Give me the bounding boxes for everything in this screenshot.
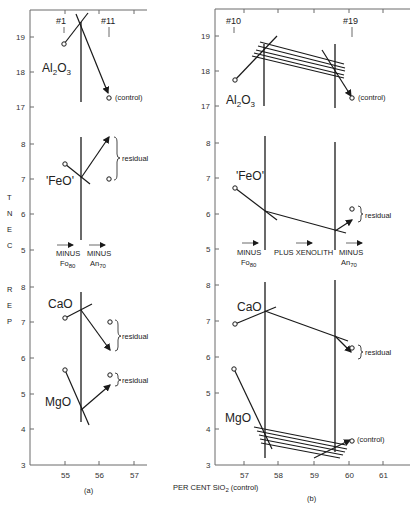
x-tick-57: 57 bbox=[130, 471, 139, 480]
y-tick-5-b: 5 bbox=[206, 245, 211, 254]
x-tick-60b: 60 bbox=[345, 471, 354, 480]
control-label: (control) bbox=[115, 93, 143, 102]
y-tick-19b: 19 bbox=[201, 32, 210, 41]
step-minus-fo80: MINUS bbox=[56, 249, 80, 258]
svg-text:E: E bbox=[7, 301, 12, 310]
svg-text:E: E bbox=[7, 225, 12, 234]
y-tick-5b: 5 bbox=[21, 390, 26, 399]
sample-label-11: #11 bbox=[101, 16, 115, 26]
y-tick-17b: 17 bbox=[201, 102, 210, 111]
panel-a-caption: (a) bbox=[84, 486, 94, 495]
oxide-label-al2o3-b: Al2O3 bbox=[226, 93, 255, 109]
oxide-label-cao: CaO bbox=[48, 297, 73, 311]
panel-b: 57 58 59 60 61 19 18 17 #10 #19 (control… bbox=[201, 9, 410, 503]
y-tick-7c: 7 bbox=[206, 317, 211, 326]
oxide-label-feo: 'FeO' bbox=[46, 174, 74, 188]
data-point-parent bbox=[62, 42, 66, 46]
y-tick-8b: 8 bbox=[21, 283, 26, 292]
oxide-label-mgo-b: MgO bbox=[225, 411, 251, 425]
x-tick-57b: 57 bbox=[240, 471, 249, 480]
x-tick-56: 56 bbox=[95, 471, 104, 480]
panel-b-caption: (b) bbox=[307, 494, 317, 503]
step-fo80-label: Fo80 bbox=[60, 259, 76, 269]
sample-label-19: #19 bbox=[343, 16, 358, 26]
cao-residual-label-b: residual bbox=[365, 348, 392, 357]
x-axis-label: PER CENT SiO2 (control) bbox=[173, 483, 259, 493]
svg-text:C: C bbox=[7, 241, 13, 250]
step-minus-an70: MINUS bbox=[87, 249, 111, 258]
y-tick-7: 7 bbox=[21, 175, 26, 184]
x-tick-59b: 59 bbox=[310, 471, 319, 480]
y-tick-18b: 18 bbox=[201, 67, 210, 76]
step-minus-fo80-b: MINUS bbox=[237, 248, 261, 257]
panel-a: 55 56 57 19 18 17 #1 #11 (control) Al2O3… bbox=[16, 10, 149, 495]
residual-label: residual bbox=[122, 154, 149, 163]
y-tick-6c: 6 bbox=[206, 353, 211, 362]
y-tick-8: 8 bbox=[21, 140, 26, 149]
oxide-label-feo-b: 'FeO' bbox=[236, 169, 264, 183]
y-axis-label: T N E C R E P bbox=[7, 193, 13, 326]
xenolith-mixing-lines bbox=[252, 42, 345, 78]
svg-text:R: R bbox=[7, 285, 13, 294]
data-point-control bbox=[107, 96, 111, 100]
mgo-residual-label: residual bbox=[122, 376, 149, 385]
cao-residual-label: residual bbox=[122, 332, 149, 341]
residual-brace bbox=[114, 137, 120, 180]
y-tick-6: 6 bbox=[21, 210, 26, 219]
step-plus-xenolith: PLUS XENOLITH bbox=[274, 248, 333, 257]
svg-text:T: T bbox=[7, 193, 12, 202]
step-minus-an70-b: MINUS bbox=[339, 248, 363, 257]
oxide-label-cao-b: CaO bbox=[237, 300, 262, 314]
x-tick-55: 55 bbox=[61, 471, 70, 480]
oxide-label-al2o3: Al2O3 bbox=[42, 61, 71, 77]
y-tick-7-b: 7 bbox=[206, 174, 211, 183]
control-label-b: (control) bbox=[358, 93, 386, 102]
y-tick-3b: 3 bbox=[21, 461, 26, 470]
sample-label-10: #10 bbox=[226, 16, 241, 26]
mgo-control-label-b: (control) bbox=[357, 435, 385, 444]
step-an70-label-b: An70 bbox=[341, 258, 358, 268]
y-tick-5: 5 bbox=[21, 246, 26, 255]
y-tick-17: 17 bbox=[16, 103, 25, 112]
figure-canvas: 55 56 57 19 18 17 #1 #11 (control) Al2O3… bbox=[0, 0, 417, 505]
y-tick-4b: 4 bbox=[21, 425, 26, 434]
oxide-label-mgo: MgO bbox=[45, 395, 71, 409]
feo-residual-label-b: residual bbox=[365, 211, 392, 220]
y-tick-7b: 7 bbox=[21, 318, 26, 327]
y-tick-8-b: 8 bbox=[206, 139, 211, 148]
step-fo80-label-b: Fo80 bbox=[241, 258, 257, 268]
sample-label-1: #1 bbox=[56, 16, 66, 26]
y-tick-4c: 4 bbox=[206, 425, 211, 434]
y-tick-6-b: 6 bbox=[206, 210, 211, 219]
svg-text:P: P bbox=[7, 317, 12, 326]
x-tick-61b: 61 bbox=[379, 471, 388, 480]
y-tick-18: 18 bbox=[16, 68, 25, 77]
mgo-mixing-lines bbox=[254, 427, 347, 458]
y-tick-3c: 3 bbox=[206, 461, 211, 470]
svg-text:N: N bbox=[7, 209, 12, 218]
step-an70-label: An70 bbox=[90, 259, 107, 269]
y-tick-8c: 8 bbox=[206, 281, 211, 290]
y-tick-6b: 6 bbox=[21, 354, 26, 363]
x-tick-58b: 58 bbox=[274, 471, 283, 480]
y-tick-5c: 5 bbox=[206, 389, 211, 398]
y-tick-19: 19 bbox=[16, 33, 25, 42]
